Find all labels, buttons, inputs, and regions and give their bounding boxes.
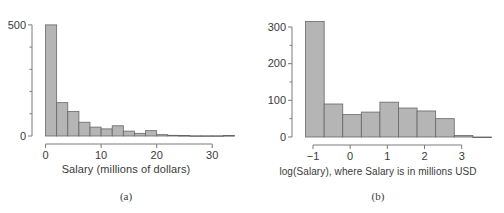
histogram-bar (201, 136, 212, 137)
x-tick-label: 20 (151, 149, 163, 160)
histogram-bar (134, 133, 145, 136)
x-tick-label: 0 (347, 150, 353, 162)
y-tick-label: 0 (20, 130, 26, 142)
histogram-bar (146, 131, 157, 136)
y-tick-label: 0 (280, 131, 286, 143)
histogram-bar (343, 115, 362, 137)
histogram-bar (361, 112, 380, 137)
axes: 0100200300−10123 (268, 21, 465, 162)
histogram-bar (46, 25, 57, 136)
histogram-bar (168, 135, 179, 136)
x-tick-label: 1 (384, 150, 390, 162)
histogram-bar (399, 108, 418, 137)
x-tick-label: 3 (459, 150, 465, 162)
figure-container: 05000102030 Salary (millions of dollars)… (0, 0, 504, 213)
histogram-bar (473, 137, 492, 138)
histogram-bar (380, 102, 399, 137)
histogram-bar (179, 136, 190, 137)
y-tick-label: 100 (268, 94, 286, 106)
histogram-bar (190, 136, 201, 137)
histogram-bar (90, 127, 101, 136)
x-tick-label: 30 (206, 149, 218, 160)
x-tick-label: 10 (95, 149, 107, 160)
panel-b: 0100200300−10123 log(Salary), where Sala… (252, 0, 504, 213)
panel-a-plot: 05000102030 (0, 0, 252, 160)
y-tick-label: 300 (268, 21, 286, 33)
histogram-bar (157, 135, 168, 136)
panel-b-xaxis-title: log(Salary), where Salary is in millions… (252, 166, 504, 177)
histogram-bars (306, 22, 492, 138)
panel-a-xaxis-title: Salary (millions of dollars) (0, 163, 252, 175)
histogram-bar (101, 129, 112, 136)
histogram-bar (306, 22, 325, 138)
histogram-bar (436, 119, 455, 137)
histogram-bar (212, 136, 223, 137)
y-tick-label: 200 (268, 57, 286, 69)
histogram-bar (417, 111, 436, 137)
x-tick-label: 2 (421, 150, 427, 162)
x-tick-label: −1 (307, 150, 320, 162)
panel-b-plot: 0100200300−10123 (252, 0, 504, 163)
panel-a: 05000102030 Salary (millions of dollars)… (0, 0, 252, 213)
histogram-bar (57, 103, 68, 136)
histogram-bar (123, 131, 134, 136)
panel-b-caption: (b) (252, 190, 504, 202)
histogram-bar (223, 136, 234, 137)
x-tick-label: 0 (42, 149, 48, 160)
histogram-bar (324, 104, 343, 137)
panel-a-caption: (a) (0, 190, 252, 202)
histogram-bar (79, 122, 90, 136)
axes: 05000102030 (8, 19, 219, 160)
histogram-bars (46, 25, 235, 136)
histogram-bar (454, 136, 473, 137)
y-tick-label: 500 (8, 19, 26, 31)
histogram-bar (112, 126, 123, 136)
histogram-bar (68, 112, 79, 136)
